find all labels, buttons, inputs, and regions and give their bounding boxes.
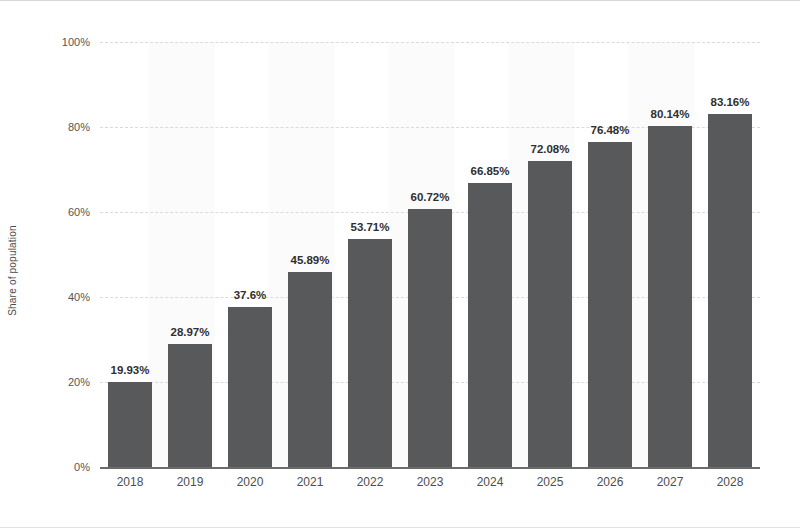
x-axis-tick-label: 2028 (700, 475, 760, 489)
bar-value-label: 60.72% (400, 191, 460, 203)
bar-slot: 72.08% (520, 42, 580, 467)
bar[interactable] (288, 272, 331, 467)
x-axis-tick-label: 2022 (340, 475, 400, 489)
x-axis-tick-label: 2027 (640, 475, 700, 489)
bar-value-label: 37.6% (220, 289, 280, 301)
bar[interactable] (528, 161, 571, 467)
x-axis-tick-label: 2019 (160, 475, 220, 489)
x-axis-tick-label: 2026 (580, 475, 640, 489)
bar-value-label: 72.08% (520, 143, 580, 155)
y-axis-tick-label: 20% (30, 376, 90, 388)
x-axis-tick-label: 2020 (220, 475, 280, 489)
bar-slot: 80.14% (640, 42, 700, 467)
x-axis-tick-label: 2018 (100, 475, 160, 489)
x-axis-tick-label: 2025 (520, 475, 580, 489)
bar[interactable] (348, 239, 391, 467)
bar-slot: 60.72% (400, 42, 460, 467)
bar-slot: 19.93% (100, 42, 160, 467)
bar-chart-figure: Share of population 0%20%40%60%80%100% 1… (0, 0, 800, 528)
y-axis-title: Share of population (7, 171, 18, 371)
bar[interactable] (468, 183, 511, 467)
bar[interactable] (228, 307, 271, 467)
bar[interactable] (168, 344, 211, 467)
x-axis-tick-label: 2023 (400, 475, 460, 489)
bar-value-label: 28.97% (160, 326, 220, 338)
bar-value-label: 80.14% (640, 108, 700, 120)
bar[interactable] (408, 209, 451, 467)
bar-slot: 83.16% (700, 42, 760, 467)
bar-value-label: 76.48% (580, 124, 640, 136)
bar-slot: 66.85% (460, 42, 520, 467)
bar[interactable] (588, 142, 631, 467)
bar-slot: 28.97% (160, 42, 220, 467)
bar-slot: 45.89% (280, 42, 340, 467)
bar-value-label: 45.89% (280, 254, 340, 266)
x-axis-tick-labels: 2018201920202021202220232024202520262027… (100, 475, 760, 499)
plot-area: 0%20%40%60%80%100% 19.93%28.97%37.6%45.8… (100, 42, 760, 467)
y-axis-tick-label: 40% (30, 291, 90, 303)
x-axis-tick-label: 2021 (280, 475, 340, 489)
y-axis-tick-label: 100% (30, 36, 90, 48)
axis-baseline (100, 467, 760, 469)
y-axis-tick-label: 0% (30, 461, 90, 473)
bar-slot: 76.48% (580, 42, 640, 467)
bar[interactable] (648, 126, 691, 467)
y-axis-tick-label: 80% (30, 121, 90, 133)
bar-slot: 53.71% (340, 42, 400, 467)
bar[interactable] (108, 382, 151, 467)
bar-series: 19.93%28.97%37.6%45.89%53.71%60.72%66.85… (100, 42, 760, 467)
bar-value-label: 83.16% (700, 96, 760, 108)
bar-slot: 37.6% (220, 42, 280, 467)
y-axis-tick-label: 60% (30, 206, 90, 218)
x-axis-tick-label: 2024 (460, 475, 520, 489)
bar-value-label: 66.85% (460, 165, 520, 177)
bar-value-label: 53.71% (340, 221, 400, 233)
bar[interactable] (708, 114, 751, 467)
bar-value-label: 19.93% (100, 364, 160, 376)
